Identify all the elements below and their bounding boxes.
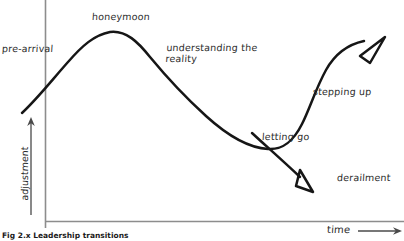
x-axis-arrow-icon xyxy=(358,227,402,235)
annotation-stepping-up: stepping up xyxy=(313,86,372,97)
annotation-understanding-the-reality: understanding the reality xyxy=(165,42,258,64)
annotation-letting-go: letting go xyxy=(262,131,310,142)
derailment-arrowhead-icon xyxy=(296,170,313,192)
y-axis-label: adjustment xyxy=(19,141,30,206)
x-axis-label: time xyxy=(327,224,351,235)
annotation-derailment: derailment xyxy=(337,172,392,183)
annotation-pre-arrival: pre-arrival xyxy=(2,43,54,54)
diagram-canvas xyxy=(0,0,404,241)
leadership-transitions-figure: pre-arrival honeymoon understanding the … xyxy=(0,0,404,241)
annotation-honeymoon: honeymoon xyxy=(92,11,151,22)
figure-caption: Fig 2.x Leadership transitions xyxy=(2,231,128,240)
